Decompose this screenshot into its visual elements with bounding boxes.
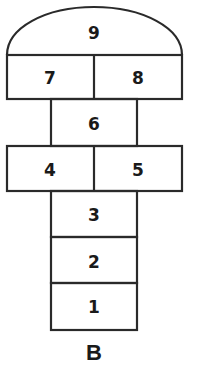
diagram-caption: B (86, 340, 102, 365)
square-4-label: 4 (44, 160, 56, 180)
square-8-label: 8 (132, 68, 144, 88)
square-2-label: 2 (88, 252, 100, 272)
square-6-label: 6 (88, 114, 100, 134)
square-7-label: 7 (44, 68, 56, 88)
square-5-label: 5 (132, 160, 144, 180)
hopscotch-diagram: 9 7 8 6 4 5 3 2 1 B (0, 0, 197, 375)
square-3-label: 3 (88, 205, 100, 225)
square-9-label: 9 (88, 23, 100, 43)
square-1-label: 1 (88, 297, 100, 317)
